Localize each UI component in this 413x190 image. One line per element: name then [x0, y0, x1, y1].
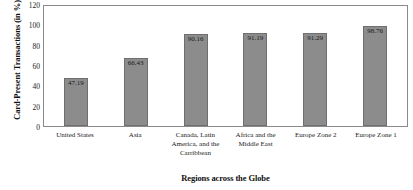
y-axis-tick-label: 40: [33, 84, 41, 92]
x-axis-category-label: Europe Zone 1: [346, 131, 406, 158]
bars-layer: 47.1966.4390.1691.1991.2998.76: [44, 6, 407, 126]
x-axis-category-label-line: United States: [46, 131, 104, 140]
x-axis-category-label-line: Middle East: [227, 140, 285, 149]
bar-slot: 91.19: [225, 6, 285, 126]
bar-value-label: 90.16: [188, 36, 204, 43]
y-axis-tick-label: 60: [33, 63, 41, 71]
bar-slot: 66.43: [106, 6, 166, 126]
x-axis-category-labels: United StatesAsiaCanada, LatinAmerica, a…: [43, 131, 408, 158]
x-axis-category-label-line: Asia: [106, 131, 164, 140]
bar-value-label: 47.19: [68, 80, 84, 87]
bar-value-label: 91.19: [248, 35, 264, 42]
x-axis-category-label: Europe Zone 2: [286, 131, 346, 158]
bar-slot: 47.19: [46, 6, 106, 126]
x-axis-category-label-line: Europe Zone 2: [287, 131, 345, 140]
bar-value-label: 91.29: [307, 35, 323, 42]
y-axis-tick-label: 80: [33, 43, 41, 51]
y-axis-tick-label: 100: [29, 23, 40, 31]
bar[interactable]: 98.76: [363, 26, 387, 126]
plot-inner: 47.1966.4390.1691.1991.2998.76: [44, 6, 407, 126]
y-axis-tick-label: 20: [33, 104, 41, 112]
x-axis-category-label: Canada, LatinAmerica, and theCarribbean: [165, 131, 225, 158]
bar-chart: Card-Present Transactions (in %) 0204060…: [0, 0, 413, 190]
x-axis-category-label-line: Europe Zone 1: [347, 131, 405, 140]
x-axis-title: Regions across the Globe: [43, 173, 408, 183]
x-axis-category-label-line: Canada, Latin: [166, 131, 224, 140]
bar[interactable]: 91.19: [243, 33, 267, 126]
y-axis-tick-label: 120: [29, 2, 40, 10]
x-axis-category-label: Asia: [105, 131, 165, 158]
bar-slot: 91.29: [285, 6, 345, 126]
bar[interactable]: 66.43: [124, 58, 148, 126]
x-axis-category-label-line: Carribbean: [166, 149, 224, 158]
x-axis-category-label: United States: [45, 131, 105, 158]
x-axis-category-label-line: America, and the: [166, 140, 224, 149]
bar[interactable]: 47.19: [64, 78, 88, 126]
bar[interactable]: 91.29: [303, 33, 327, 126]
bar-value-label: 98.76: [367, 28, 383, 35]
plot-area: 47.1966.4390.1691.1991.2998.76: [43, 5, 408, 127]
y-axis-tick-labels: 020406080100120: [14, 0, 40, 130]
x-axis-category-label: Africa and theMiddle East: [226, 131, 286, 158]
bar[interactable]: 90.16: [184, 34, 208, 126]
bar-slot: 98.76: [345, 6, 405, 126]
bar-slot: 90.16: [166, 6, 226, 126]
x-axis-category-label-line: Africa and the: [227, 131, 285, 140]
bar-value-label: 66.43: [128, 60, 144, 67]
y-axis-tick-label: 0: [36, 124, 40, 132]
